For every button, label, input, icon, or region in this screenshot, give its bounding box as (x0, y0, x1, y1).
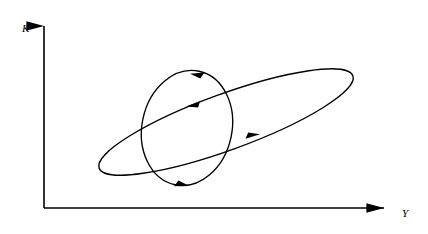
flat-tilted-ellipse (90, 50, 363, 195)
flat-ellipse-lower-arrow (246, 133, 261, 139)
steep-ellipse-path (131, 62, 243, 194)
steep-ellipse-top-arrow (190, 73, 205, 79)
flat-ellipse-upper-arrow (186, 101, 200, 107)
steep-ellipse-bottom-arrow (174, 180, 189, 186)
flat-ellipse-path (90, 50, 363, 195)
diagram-canvas: K Y (0, 0, 428, 234)
y-axis-label: Y (402, 207, 410, 219)
steep-ellipse (131, 62, 243, 194)
phase-portrait-figure: K Y (0, 0, 428, 234)
axes-group (44, 26, 384, 208)
k-axis-label: K (21, 22, 30, 34)
